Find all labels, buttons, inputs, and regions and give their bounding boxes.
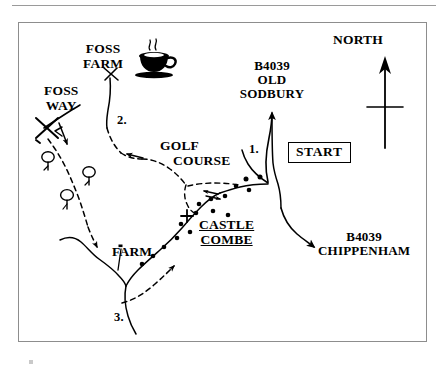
tree-icon xyxy=(83,167,95,185)
road-to-chippenham xyxy=(281,208,314,247)
place-label-farm: FARM xyxy=(112,245,152,260)
waypoint-3-label: 3. xyxy=(114,311,124,325)
footpath-waypoint3-to-valley xyxy=(122,266,174,303)
crossing-mark-icon xyxy=(36,118,67,144)
start-marker[interactable]: START xyxy=(288,142,351,163)
map-root: FOSS FARM FOSS WAY GOLF COURSE CASTLE CO… xyxy=(0,0,448,375)
map-drawing xyxy=(0,0,448,375)
road-to-old-sodbury xyxy=(266,113,272,182)
church-cross-icon xyxy=(181,210,193,222)
road-label-chippenham: B4039 CHIPPENHAM xyxy=(318,230,410,258)
place-label-castle-combe: CASTLE COMBE xyxy=(199,218,254,247)
road-junction-start xyxy=(242,115,281,208)
place-label-foss-farm: FOSS FARM xyxy=(83,42,123,71)
north-arrow-icon xyxy=(367,56,403,148)
compass-label-north: NORTH xyxy=(333,33,383,48)
place-label-foss-way: FOSS WAY xyxy=(44,84,79,113)
road-label-old-sodbury: B4039 OLD SODBURY xyxy=(228,59,316,101)
coffee-cup-icon xyxy=(135,39,176,78)
tree-icon xyxy=(42,152,54,170)
waypoint-2-label: 2. xyxy=(117,114,127,128)
waypoint-1-label: 1. xyxy=(249,143,259,157)
tree-icon xyxy=(61,190,74,209)
place-label-golf-course: GOLF COURSE xyxy=(160,139,230,168)
